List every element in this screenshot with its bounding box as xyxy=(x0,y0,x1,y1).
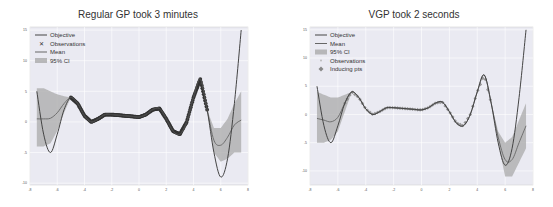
y-tick-label: 15 xyxy=(23,28,27,32)
x-tick-label: 8 xyxy=(532,188,534,192)
x-tick-label: -6 xyxy=(56,188,59,192)
x-tick-label: -2 xyxy=(110,188,113,192)
legend-label: Objective xyxy=(50,32,76,38)
legend-label: 95% CI xyxy=(50,58,70,64)
y-tick-label: 5 xyxy=(25,90,27,94)
right-chart-panel: VGP took 2 seconds -8-6-4-202468151050-5… xyxy=(276,0,552,207)
legend-label: Inducing pts xyxy=(330,66,362,72)
x-tick-label: -8 xyxy=(308,188,311,192)
x-tick-label: 2 xyxy=(165,188,167,192)
legend-label: Observations xyxy=(50,41,85,47)
y-tick-label: 10 xyxy=(303,56,307,60)
x-tick-label: 4 xyxy=(476,188,478,192)
y-tick-label: 5 xyxy=(305,84,307,88)
y-tick-label: 0 xyxy=(305,113,307,117)
x-tick-label: 0 xyxy=(421,188,423,192)
x-tick-label: 6 xyxy=(504,188,506,192)
x-tick-label: -2 xyxy=(392,188,395,192)
y-tick-label: 10 xyxy=(23,59,27,63)
left-plot: -8-6-4-202468151050-5-10Objective✕Observ… xyxy=(0,0,276,207)
y-tick-label: -10 xyxy=(22,181,27,185)
y-tick-label: -5 xyxy=(24,151,27,155)
y-tick-label: 15 xyxy=(303,28,307,32)
x-tick-label: 2 xyxy=(448,188,450,192)
y-tick-label: 0 xyxy=(25,120,27,124)
y-tick-label: -5 xyxy=(304,141,307,145)
x-tick-label: -8 xyxy=(28,188,31,192)
x-tick-label: -4 xyxy=(83,188,86,192)
right-plot: -8-6-4-202468151050-5-10ObjectiveMean95%… xyxy=(276,0,553,207)
legend-label: 95% CI xyxy=(330,49,350,55)
legend-label: Observations xyxy=(330,58,365,64)
left-chart-panel: Regular GP took 3 minutes -8-6-4-2024681… xyxy=(0,0,276,207)
legend-label: Objective xyxy=(330,32,356,38)
legend-label: Mean xyxy=(330,41,345,47)
y-tick-label: -10 xyxy=(302,169,307,173)
svg-text:✕: ✕ xyxy=(39,41,44,47)
legend-label: Mean xyxy=(50,49,65,55)
x-tick-label: 8 xyxy=(247,188,249,192)
x-tick-label: -6 xyxy=(336,188,339,192)
x-tick-label: 0 xyxy=(138,188,140,192)
x-tick-label: 4 xyxy=(193,188,195,192)
x-tick-label: -4 xyxy=(364,188,367,192)
x-tick-label: 6 xyxy=(220,188,222,192)
